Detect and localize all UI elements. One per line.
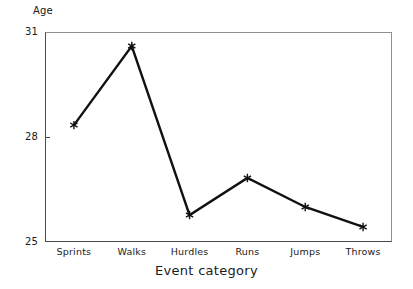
- series-age: [45, 32, 392, 242]
- plot-area: [45, 32, 392, 242]
- x-tick-label: Hurdles: [171, 246, 209, 257]
- y-tick-label: 28: [8, 132, 38, 142]
- x-tick-label: Runs: [235, 246, 259, 257]
- line-chart: Age 312825 SprintsWalksHurdlesRunsJumpsT…: [0, 0, 413, 289]
- x-tick-label: Sprints: [57, 246, 92, 257]
- y-tick-label: 31: [8, 27, 38, 37]
- x-axis-title: Event category: [0, 263, 413, 278]
- y-axis-label: Age: [33, 5, 53, 17]
- x-tick-label: Walks: [117, 246, 146, 257]
- x-tick-label: Throws: [345, 246, 380, 257]
- y-tick-mark: [45, 137, 50, 138]
- line-path-age: [74, 46, 363, 227]
- x-tick-label: Jumps: [290, 246, 320, 257]
- y-tick-label: 25: [8, 237, 38, 247]
